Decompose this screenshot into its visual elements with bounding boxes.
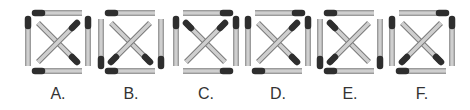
option-label: B.	[95, 85, 167, 103]
match-head	[402, 57, 407, 62]
matchstick-square-diagram	[170, 8, 242, 76]
match-head	[330, 57, 335, 62]
matchstick-square-diagram	[95, 8, 167, 76]
figure-d: D.	[242, 0, 314, 110]
option-label: D.	[242, 85, 314, 103]
matchstick-square-diagram	[242, 8, 314, 76]
match-head	[111, 57, 116, 62]
matchstick-square-diagram	[22, 8, 94, 76]
figure-b: B.	[95, 0, 167, 110]
option-label: C.	[170, 85, 242, 103]
option-label: A.	[22, 85, 94, 103]
match-head	[186, 23, 191, 28]
match-head	[72, 57, 77, 62]
match-head	[220, 23, 225, 28]
option-label: F.	[386, 85, 458, 103]
figure-a: A.	[22, 0, 94, 110]
matchstick-square-diagram	[314, 8, 386, 76]
match-head	[436, 57, 441, 62]
match-head	[145, 57, 150, 62]
match-head	[72, 23, 77, 28]
figure-f: F.	[386, 0, 458, 110]
match-head	[330, 23, 335, 28]
match-head	[292, 23, 297, 28]
matchstick-square-diagram	[386, 8, 458, 76]
figure-e: E.	[314, 0, 386, 110]
option-label: E.	[314, 85, 386, 103]
figure-c: C.	[170, 0, 242, 110]
match-head	[292, 57, 297, 62]
